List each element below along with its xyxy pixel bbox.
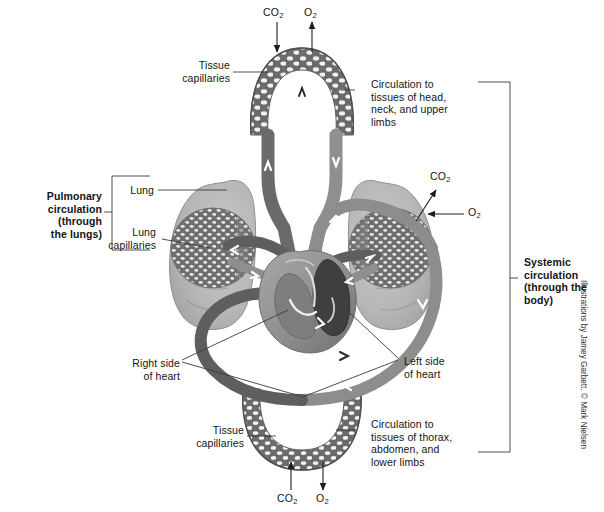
label-tissue-capillaries-bottom: Tissue capillaries <box>166 424 244 449</box>
label-circulation-lower-body: Circulation to tissues of thorax, abdome… <box>371 418 489 468</box>
tissue-capillary-bed-upper <box>251 48 354 135</box>
circulation-illustration <box>0 0 604 512</box>
gas-label-o2-bottom: O2 <box>316 492 329 504</box>
gas-label-o2-lung: O2 <box>468 206 481 218</box>
label-tissue-capillaries-top: Tissue capillaries <box>152 59 230 84</box>
label-circulation-upper-body: Circulation to tissues of head, neck, an… <box>371 78 481 128</box>
credit-line-wrapper: Illustrations by Jamey Garbett. © Mark N… <box>588 280 602 440</box>
figure-canvas: Pulmonary circulation (through the lungs… <box>0 0 604 512</box>
label-left-side-of-heart: Left side of heart <box>404 355 476 380</box>
gas-label-o2-top: O2 <box>304 6 317 18</box>
label-right-side-of-heart: Right side of heart <box>108 357 180 382</box>
heart-graphic <box>259 251 356 353</box>
label-lung-capillaries: Lung capillaries <box>80 226 156 251</box>
lung-capillary-mesh-left <box>171 208 255 288</box>
gas-label-co2-bottom: CO2 <box>277 492 298 504</box>
credit-line: Illustrations by Jamey Garbett. © Mark N… <box>579 280 588 449</box>
gas-label-co2-top: CO2 <box>263 6 284 18</box>
gas-label-co2-lung: CO2 <box>430 170 451 182</box>
label-lung: Lung <box>92 184 154 197</box>
